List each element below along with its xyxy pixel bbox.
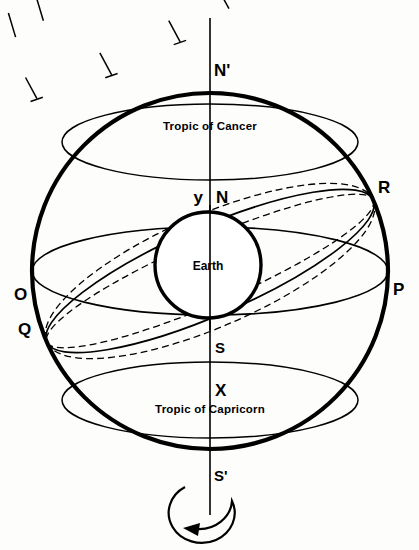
zodiac-tick <box>218 0 229 9</box>
label-point-O: O <box>14 285 27 304</box>
zodiac-tick-caps <box>0 0 225 120</box>
label-point-X: X <box>215 381 227 400</box>
label-point-N: N <box>216 188 228 207</box>
celestial-sphere-diagram: N' Tropic of Cancer N y Earth S X Tropic… <box>0 0 419 550</box>
rotation-arc <box>169 487 235 543</box>
label-point-R: R <box>378 178 390 197</box>
rotation-arrowhead <box>183 523 200 536</box>
zodiac-tick <box>6 13 19 37</box>
label-point-P: P <box>393 280 404 299</box>
label-tropic-of-cancer: Tropic of Cancer <box>163 120 257 132</box>
label-point-S: S <box>215 339 225 356</box>
label-point-y: y <box>194 188 204 207</box>
label-north-celestial-pole: N' <box>214 61 230 80</box>
label-point-Q: Q <box>18 320 31 339</box>
label-earth: Earth <box>193 259 224 273</box>
label-tropic-of-capricorn: Tropic of Capricorn <box>155 403 265 415</box>
zodiac-tick <box>26 77 37 100</box>
label-south-celestial-pole: S' <box>214 467 228 484</box>
zodiac-tick <box>169 20 180 43</box>
rotation-direction-arrow <box>169 487 235 543</box>
zodiac-tick <box>33 0 46 21</box>
zodiac-tick <box>100 52 112 76</box>
celestial-sphere-drawing: N' Tropic of Cancer N y Earth S X Tropic… <box>0 0 419 550</box>
